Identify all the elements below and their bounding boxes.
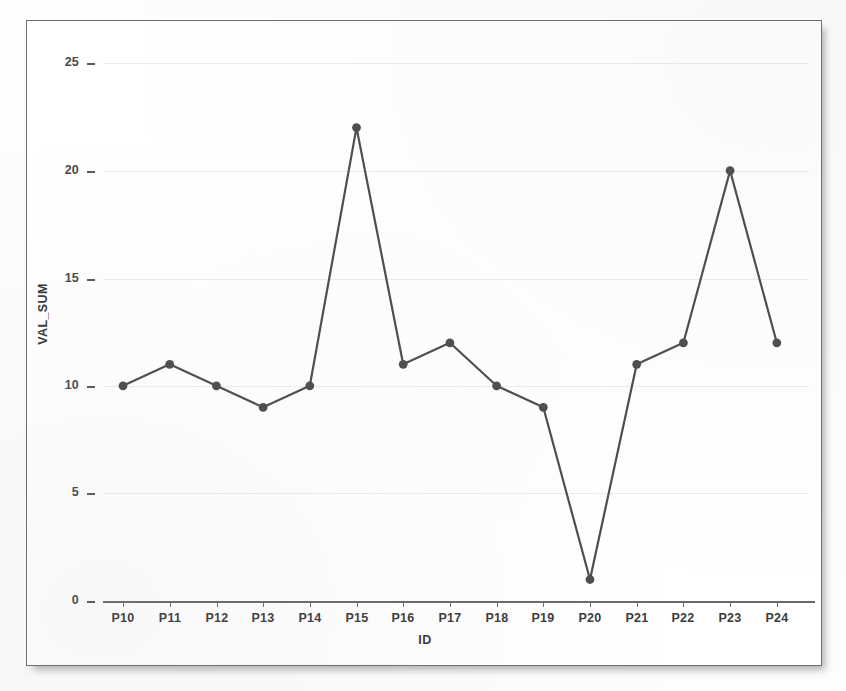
plot-area: 25 20 15 10 5 0 VAL_SUM P10 P11 P12 <box>27 21 823 667</box>
chart-frame: 25 20 15 10 5 0 VAL_SUM P10 P11 P12 <box>26 20 822 666</box>
data-point-P16 <box>399 360 408 369</box>
data-point-P14 <box>305 381 314 390</box>
data-point-P24 <box>772 338 781 347</box>
data-point-P10 <box>119 381 128 390</box>
data-point-P22 <box>679 338 688 347</box>
data-point-P20 <box>586 575 595 584</box>
data-point-P15 <box>352 123 361 132</box>
scanned-page: 25 20 15 10 5 0 VAL_SUM P10 P11 P12 <box>0 0 846 691</box>
data-point-P23 <box>726 166 735 175</box>
series-polyline <box>123 128 777 580</box>
data-point-P13 <box>259 403 268 412</box>
data-series-line <box>27 21 823 667</box>
data-point-P21 <box>632 360 641 369</box>
data-point-P17 <box>446 338 455 347</box>
series-markers <box>119 123 782 584</box>
data-point-P12 <box>212 381 221 390</box>
data-point-P19 <box>539 403 548 412</box>
data-point-P18 <box>492 381 501 390</box>
data-point-P11 <box>165 360 174 369</box>
